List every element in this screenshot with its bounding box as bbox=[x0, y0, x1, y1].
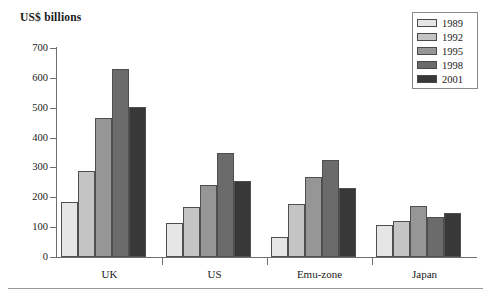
bar bbox=[427, 217, 444, 257]
y-axis-tick-label: 200 bbox=[4, 192, 48, 202]
bar bbox=[95, 118, 112, 257]
x-axis-category-label: UK bbox=[57, 268, 162, 280]
legend-item-label: 1992 bbox=[442, 32, 463, 43]
bar bbox=[217, 153, 234, 257]
legend-item[interactable]: 1998 bbox=[417, 58, 474, 72]
legend-item[interactable]: 2001 bbox=[417, 72, 474, 86]
y-axis-tick-label-wrap: 700 bbox=[0, 43, 48, 53]
legend-item-label: 1995 bbox=[442, 46, 463, 57]
bar bbox=[271, 237, 288, 257]
x-axis-category-label: Japan bbox=[372, 268, 477, 280]
bar bbox=[61, 202, 78, 257]
legend-swatch-icon bbox=[417, 47, 437, 55]
bar bbox=[129, 107, 146, 257]
x-axis-separator-tick bbox=[162, 258, 163, 265]
y-axis-tick-label: 300 bbox=[4, 162, 48, 172]
y-axis-tick bbox=[50, 108, 57, 109]
y-axis-tick-label-wrap: 400 bbox=[0, 133, 48, 143]
bar bbox=[166, 223, 183, 257]
y-axis-tick bbox=[50, 48, 57, 49]
bar-chart: US$ billions 7006005004003002001000 UKUS… bbox=[0, 0, 491, 296]
legend-swatch-icon bbox=[417, 33, 437, 41]
y-axis-tick-label-wrap: 300 bbox=[0, 162, 48, 172]
legend-item-label: 1989 bbox=[442, 18, 463, 29]
y-axis-tick-label: 0 bbox=[4, 252, 48, 262]
y-axis-tick-label: 700 bbox=[4, 43, 48, 53]
legend-item-label: 1998 bbox=[442, 60, 463, 71]
y-axis-tick bbox=[50, 138, 57, 139]
y-axis-tick-label: 100 bbox=[4, 222, 48, 232]
y-axis-tick-label: 500 bbox=[4, 103, 48, 113]
legend-swatch-icon bbox=[417, 75, 437, 83]
bar bbox=[288, 204, 305, 257]
bar bbox=[339, 188, 356, 257]
legend-swatch-icon bbox=[417, 19, 437, 27]
bar bbox=[444, 213, 461, 257]
bar bbox=[410, 206, 427, 257]
x-axis-separator-tick bbox=[267, 258, 268, 265]
y-axis-tick-label: 400 bbox=[4, 133, 48, 143]
y-axis-tick bbox=[50, 227, 57, 228]
legend-item[interactable]: 1995 bbox=[417, 44, 474, 58]
legend: 19891992199519982001 bbox=[412, 12, 478, 89]
y-axis-tick-label-wrap: 100 bbox=[0, 222, 48, 232]
y-axis-tick bbox=[50, 197, 57, 198]
legend-item-label: 2001 bbox=[442, 74, 463, 85]
bar bbox=[322, 160, 339, 257]
y-axis-tick bbox=[50, 257, 57, 258]
y-axis-tick-label-wrap: 600 bbox=[0, 73, 48, 83]
y-axis-tick-label-wrap: 200 bbox=[0, 192, 48, 202]
y-axis-tick-label: 600 bbox=[4, 73, 48, 83]
legend-item[interactable]: 1992 bbox=[417, 30, 474, 44]
x-axis-category-label: Emu-zone bbox=[267, 268, 372, 280]
legend-item[interactable]: 1989 bbox=[417, 16, 474, 30]
y-axis-tick bbox=[50, 167, 57, 168]
x-axis-separator-tick bbox=[372, 258, 373, 265]
bar bbox=[305, 177, 322, 257]
y-axis-tick bbox=[50, 78, 57, 79]
x-axis-category-label: US bbox=[162, 268, 267, 280]
y-axis-tick-label-wrap: 0 bbox=[0, 252, 48, 262]
y-axis-tick-label-wrap: 500 bbox=[0, 103, 48, 113]
bar bbox=[183, 207, 200, 257]
bar bbox=[376, 225, 393, 257]
bar bbox=[112, 69, 129, 257]
bar bbox=[78, 171, 95, 257]
legend-swatch-icon bbox=[417, 61, 437, 69]
bar bbox=[393, 221, 410, 257]
footer-rule bbox=[8, 288, 483, 289]
chart-title: US$ billions bbox=[20, 11, 82, 23]
bar bbox=[234, 181, 251, 257]
bar bbox=[200, 185, 217, 257]
